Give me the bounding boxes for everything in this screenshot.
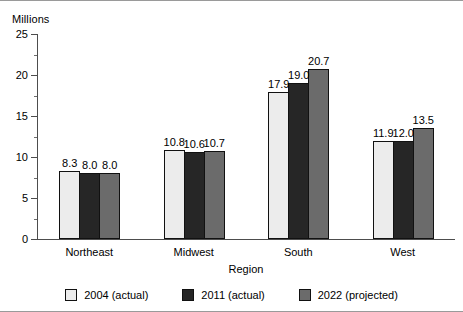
bar-value-label: 11.9 [373, 127, 394, 139]
x-axis-line [37, 239, 455, 240]
bar[interactable]: 13.5 [413, 128, 434, 239]
bar-chart: Millions 0510152025 8.38.08.0Northeast10… [0, 0, 463, 312]
bar-group: 17.919.020.7South [246, 34, 351, 239]
y-tick-label: 10 [16, 151, 28, 163]
bar-value-label: 8.0 [82, 159, 97, 171]
bar[interactable]: 10.6 [184, 152, 205, 239]
x-tick-label: Northeast [37, 246, 142, 258]
bar-value-label: 12.0 [393, 127, 414, 139]
bar-group-bars: 11.912.013.5 [351, 34, 456, 239]
bar[interactable]: 19.0 [288, 83, 309, 239]
bar-value-label: 10.8 [164, 136, 185, 148]
bar[interactable]: 8.3 [59, 171, 80, 239]
bar-group: 10.810.610.7Midwest [142, 34, 247, 239]
bar-value-label: 10.6 [184, 138, 205, 150]
y-tick-label: 25 [16, 28, 28, 40]
legend-item[interactable]: 2004 (actual) [65, 289, 148, 301]
bar[interactable]: 10.7 [204, 151, 225, 239]
bar-value-label: 8.3 [62, 157, 77, 169]
x-tick-label: South [246, 246, 351, 258]
chart-legend: 2004 (actual)2011 (actual)2022 (projecte… [0, 289, 463, 301]
bar-group: 8.38.08.0Northeast [37, 34, 142, 239]
legend-swatch [182, 289, 194, 301]
x-axis-title: Region [37, 263, 455, 275]
plot-area: 0510152025 8.38.08.0Northeast10.810.610.… [37, 34, 455, 239]
bar[interactable]: 11.9 [373, 141, 394, 239]
y-tick-label: 0 [22, 233, 28, 245]
bar[interactable]: 8.0 [99, 173, 120, 239]
bar-group-bars: 10.810.610.7 [142, 34, 247, 239]
bar[interactable]: 10.8 [164, 150, 185, 239]
legend-label: 2004 (actual) [84, 289, 148, 301]
bar-value-label: 13.5 [413, 114, 434, 126]
bar[interactable]: 8.0 [79, 173, 100, 239]
legend-label: 2011 (actual) [201, 289, 264, 301]
x-tick-label: Midwest [142, 246, 247, 258]
legend-swatch [65, 289, 77, 301]
bar-group-bars: 8.38.08.0 [37, 34, 142, 239]
bar[interactable]: 12.0 [393, 141, 414, 239]
bar-value-label: 20.7 [308, 55, 329, 67]
bar-value-label: 19.0 [288, 69, 309, 81]
bar-group-bars: 17.919.020.7 [246, 34, 351, 239]
y-tick-major [31, 239, 37, 240]
bar-value-label: 8.0 [102, 159, 117, 171]
y-axis-title: Millions [12, 13, 49, 25]
bar-value-label: 10.7 [204, 137, 225, 149]
legend-label: 2022 (projected) [318, 289, 398, 301]
bar[interactable]: 20.7 [308, 69, 329, 239]
x-tick-label: West [351, 246, 456, 258]
legend-swatch [299, 289, 311, 301]
bar-value-label: 17.9 [268, 78, 289, 90]
y-tick-label: 5 [22, 192, 28, 204]
bar[interactable]: 17.9 [268, 92, 289, 239]
bar-group: 11.912.013.5West [351, 34, 456, 239]
legend-item[interactable]: 2022 (projected) [299, 289, 398, 301]
legend-item[interactable]: 2011 (actual) [182, 289, 264, 301]
y-tick-label: 15 [16, 110, 28, 122]
y-tick-label: 20 [16, 69, 28, 81]
